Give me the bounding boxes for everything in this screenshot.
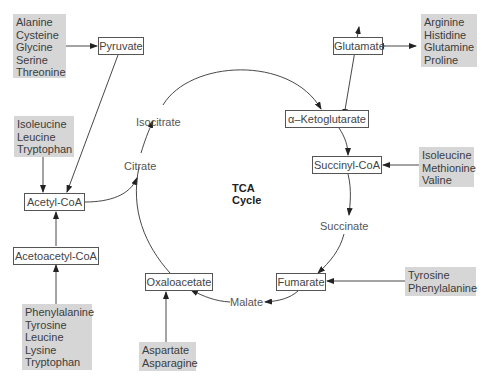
- amino-acids-to-succinyl-coa: Isoleucine Methionine Valine: [419, 147, 474, 187]
- amino-acid-label: Cysteine: [16, 29, 63, 42]
- diagram-title: TCA Cycle: [232, 182, 261, 206]
- amino-acid-label: Histidine: [424, 29, 474, 42]
- node-acetyl-coa: Acetyl-CoA: [24, 193, 85, 211]
- amino-acids-to-pyruvate: Alanine Cysteine Glycine Serine Threonin…: [13, 14, 66, 78]
- node-glutamate: Glutamate: [333, 37, 383, 55]
- amino-acid-label: Leucine: [25, 331, 89, 344]
- node-succinyl-coa: Succinyl-CoA: [312, 156, 382, 174]
- node-citrate: Citrate: [124, 160, 156, 172]
- amino-acid-label: Phenylalanine: [25, 306, 89, 319]
- amino-acid-label: Tyrosine: [25, 319, 89, 332]
- node-fumarate: Fumarate: [276, 273, 326, 291]
- amino-acids-to-acetoacetyl-coa: Phenylalanine Tyrosine Leucine Lysine Tr…: [22, 304, 92, 370]
- title-line-2: Cycle: [232, 194, 261, 206]
- node-isocitrate: Isocitrate: [136, 116, 181, 128]
- amino-acid-label: Glycine: [16, 41, 63, 54]
- amino-acid-label: Tryptophan: [17, 143, 71, 156]
- tca-cycle-diagram: Alanine Cysteine Glycine Serine Threonin…: [0, 0, 489, 385]
- amino-acid-label: Tyrosine: [408, 269, 473, 282]
- amino-acid-label: Aspartate: [142, 344, 193, 357]
- node-pyruvate: Pyruvate: [98, 37, 144, 55]
- amino-acids-to-glutamate: Arginine Histidine Glutamine Proline: [421, 14, 477, 67]
- node-oxaloacetate: Oxaloacetate: [145, 273, 213, 291]
- amino-acids-to-oxaloacetate: Aspartate Asparagine: [139, 342, 196, 371]
- amino-acid-label: Isoleucine: [422, 149, 471, 162]
- node-acetoacetyl-coa: Acetoacetyl-CoA: [13, 247, 99, 265]
- amino-acid-label: Methionine: [422, 162, 471, 175]
- amino-acid-label: Isoleucine: [17, 118, 71, 131]
- amino-acid-label: Asparagine: [142, 357, 193, 370]
- amino-acid-label: Proline: [424, 54, 474, 67]
- amino-acids-to-fumarate: Tyrosine Phenylalanine: [405, 267, 476, 296]
- amino-acid-label: Lysine: [25, 344, 89, 357]
- amino-acid-label: Tryptophan: [25, 356, 89, 369]
- amino-acids-to-acetyl-coa: Isoleucine Leucine Tryptophan: [14, 116, 74, 157]
- amino-acid-label: Serine: [16, 54, 63, 67]
- amino-acid-label: Arginine: [424, 16, 474, 29]
- node-alpha-ketoglutarate: α–Ketoglutarate: [285, 110, 369, 128]
- node-malate: Malate: [230, 296, 263, 308]
- node-succinate: Succinate: [320, 220, 368, 232]
- amino-acid-label: Alanine: [16, 16, 63, 29]
- amino-acid-label: Valine: [422, 174, 471, 187]
- amino-acid-label: Phenylalanine: [408, 282, 473, 295]
- amino-acid-label: Glutamine: [424, 41, 474, 54]
- title-line-1: TCA: [232, 182, 261, 194]
- amino-acid-label: Leucine: [17, 131, 71, 144]
- amino-acid-label: Threonine: [16, 66, 63, 79]
